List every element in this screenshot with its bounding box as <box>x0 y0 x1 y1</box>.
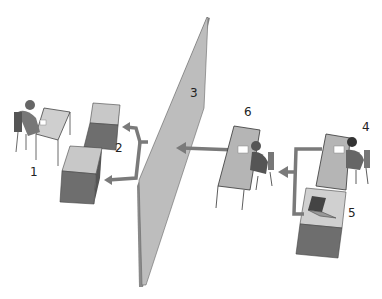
label-3: 3 <box>190 87 198 99</box>
desk-person-4 <box>316 134 370 190</box>
label-1: 1 <box>30 166 38 178</box>
box-lower <box>60 146 102 204</box>
laptop-box-5 <box>296 188 346 258</box>
return-arrow-head <box>278 166 288 178</box>
label-4: 4 <box>362 121 370 133</box>
desk-person-1 <box>14 100 70 166</box>
label-2: 2 <box>115 142 123 154</box>
label-5: 5 <box>348 207 356 219</box>
diagram-canvas <box>0 0 382 299</box>
label-6: 6 <box>244 106 252 118</box>
partition-wall <box>137 17 210 287</box>
desk-person-6 <box>216 126 274 210</box>
arrow-head-upper <box>122 122 130 132</box>
arrow-head-lower <box>104 175 112 185</box>
